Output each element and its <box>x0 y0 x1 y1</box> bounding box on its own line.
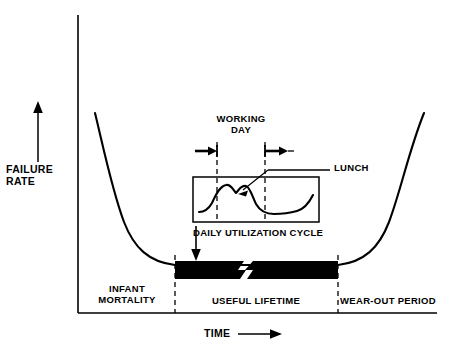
working-day-arrow-right-icon <box>265 145 294 157</box>
y-axis-label-line2: RATE <box>6 175 53 187</box>
infant-mortality-curve <box>95 113 175 265</box>
daily-utilization-cycle-label: DAILY UTILIZATION CYCLE <box>193 228 323 239</box>
useful-lifetime-bar-right <box>245 261 338 279</box>
working-day-label-line2: DAY <box>216 125 265 136</box>
right-arrow-icon <box>238 329 282 339</box>
daily-utilization-inset-curve <box>199 185 313 214</box>
up-arrow-icon <box>33 101 43 162</box>
y-axis-label-line1: FAILURE <box>6 163 53 175</box>
working-day-label: WORKING DAY <box>216 114 265 136</box>
y-axis-label: FAILURE RATE <box>6 163 53 187</box>
phase-label-infant-mortality: INFANT MORTALITY <box>98 284 155 306</box>
phase-label-useful-lifetime: USEFUL LIFETIME <box>212 296 300 307</box>
daily-utilization-inset-box <box>193 177 319 222</box>
phase-label-infant-mortality-line2: MORTALITY <box>98 295 155 306</box>
wear-out-curve <box>338 113 424 265</box>
lunch-label: LUNCH <box>334 163 369 174</box>
useful-lifetime-bar-left <box>175 261 246 279</box>
bathtub-curve-figure: FAILURE RATE TIME WORKING DAY LUNCH DAIL… <box>0 0 451 355</box>
x-axis-label: TIME <box>204 327 230 339</box>
working-day-arrow-left-icon <box>195 145 217 157</box>
phase-label-wear-out-period: WEAR-OUT PERIOD <box>340 296 436 307</box>
